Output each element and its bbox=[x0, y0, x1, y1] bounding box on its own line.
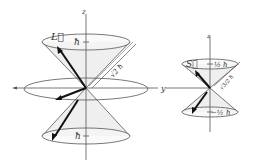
arrowhead-icon bbox=[55, 95, 62, 100]
magnitude-label: √2 ħ bbox=[109, 62, 125, 79]
orbital-figure: z y L⃗ ħ ħ √2 ħ bbox=[12, 8, 166, 160]
angular-momentum-diagram: z y L⃗ ħ ħ √2 ħ z S⃗ ½ ħ −½ ħ √3/2 ħ bbox=[0, 0, 257, 166]
spin-figure: z S⃗ ½ ħ −½ ħ √3/2 ħ bbox=[166, 32, 240, 132]
L-vector-label: L⃗ bbox=[50, 31, 64, 42]
S-vector-label: S⃗ bbox=[186, 59, 198, 69]
y-axis-label: y bbox=[160, 84, 166, 93]
lower-projection-label: ħ bbox=[75, 131, 81, 141]
upper-projection-label: ħ bbox=[74, 37, 80, 47]
diagram-canvas: z y L⃗ ħ ħ √2 ħ z S⃗ ½ ħ −½ ħ √3/2 ħ bbox=[0, 0, 257, 166]
spin-up-label: ½ ħ bbox=[214, 61, 228, 69]
z-axis-label: z bbox=[81, 8, 86, 16]
y-axis-arrow-icon bbox=[12, 87, 17, 90]
spin-down-label: −½ ħ bbox=[211, 109, 230, 117]
